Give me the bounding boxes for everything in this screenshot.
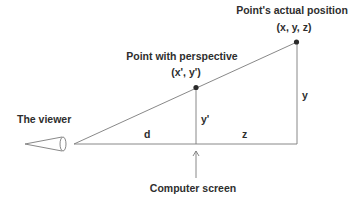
perspective-point-title: Point with perspective [126,51,237,62]
computer-screen-label: Computer screen [150,183,236,194]
perspective-point-coords: (x', y') [171,67,201,78]
perspective-point [193,85,198,90]
height-y-label: y [302,90,308,101]
actual-position-title: Point's actual position [236,5,348,16]
viewer-label: The viewer [17,114,71,125]
height-y-prime-label: y' [201,114,209,125]
actual-point [294,39,299,44]
actual-position-coords: (x, y, z) [277,22,312,33]
screen-arrow-icon [193,151,199,178]
eye-icon [25,137,66,151]
distance-d-label: d [144,129,150,140]
distance-z-label: z [242,129,247,140]
